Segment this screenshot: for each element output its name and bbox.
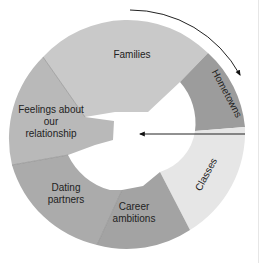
edge-rule (258, 0, 259, 263)
label-feelings-line2: our (44, 116, 59, 127)
label-families: Families (113, 49, 150, 60)
ring-diagram: Families Hometowns Classes Career ambiti… (0, 0, 260, 263)
label-dating-line2: partners (48, 194, 85, 205)
label-career-line1: Career (119, 201, 150, 212)
label-feelings-line3: relationship (25, 128, 77, 139)
diagram-canvas: Families Hometowns Classes Career ambiti… (0, 0, 260, 263)
label-career-line2: ambitions (113, 213, 156, 224)
label-feelings-line1: Feelings about (18, 104, 84, 115)
label-dating-line1: Dating (52, 182, 81, 193)
